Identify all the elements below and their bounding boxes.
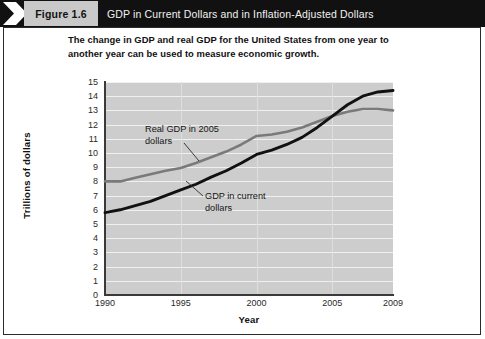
y-axis-tick-label: 15: [72, 77, 98, 87]
current-gdp-annotation-line-1: GDP in current: [205, 191, 315, 203]
y-axis-tick-label: 7: [72, 191, 98, 201]
chart: 0123456789101112131415 19901995200020052…: [0, 0, 485, 339]
figure-container: Figure 1.6 GDP in Current Dollars and in…: [0, 0, 485, 339]
real-gdp-annotation-line-2: dollars: [145, 136, 265, 148]
y-axis-tick-label: 4: [72, 233, 98, 243]
y-axis-tick-label: 5: [72, 219, 98, 229]
gridline-horizontal: [105, 224, 393, 225]
gridline-horizontal: [105, 252, 393, 253]
gridline-horizontal: [105, 110, 393, 111]
gridline-horizontal: [105, 167, 393, 168]
y-axis-tick-label: 3: [72, 247, 98, 257]
x-axis-line: [104, 294, 394, 296]
y-axis-tick-label: 1: [72, 276, 98, 286]
gridline-horizontal: [105, 267, 393, 268]
y-axis-line: [104, 81, 106, 296]
y-axis-tick-label: 14: [72, 91, 98, 101]
gridline-horizontal: [105, 153, 393, 154]
x-axis-tick-label: 1995: [156, 298, 206, 308]
gridline-horizontal: [105, 96, 393, 97]
x-axis-tick-label: 1990: [80, 298, 130, 308]
x-axis-tick-label: 2000: [232, 298, 282, 308]
y-axis-tick-label: 8: [72, 176, 98, 186]
y-axis-tick-label: 13: [72, 105, 98, 115]
y-axis-tick-label: 9: [72, 162, 98, 172]
gridline-horizontal: [105, 238, 393, 239]
x-axis-tick-label: 2009: [368, 298, 418, 308]
gridline-horizontal: [105, 82, 393, 83]
gridline-vertical: [332, 82, 333, 295]
x-axis-tick-label: 2005: [307, 298, 357, 308]
x-axis-label: Year: [199, 314, 299, 325]
plot-background: [105, 82, 393, 295]
y-axis-tick-label: 2: [72, 262, 98, 272]
current-gdp-annotation-line-2: dollars: [205, 203, 315, 215]
gridline-vertical: [181, 82, 182, 295]
y-axis-tick-label: 11: [72, 134, 98, 144]
current-gdp-annotation: GDP in current dollars: [205, 191, 315, 215]
y-axis-label: Trillions of dollars: [21, 116, 32, 236]
real-gdp-annotation-line-1: Real GDP in 2005: [145, 124, 265, 136]
y-axis-tick-label: 10: [72, 148, 98, 158]
y-axis-tick-label: 12: [72, 120, 98, 130]
gridline-horizontal: [105, 181, 393, 182]
gridline-horizontal: [105, 281, 393, 282]
gridline-vertical: [257, 82, 258, 295]
y-axis-tick-label: 6: [72, 205, 98, 215]
real-gdp-annotation: Real GDP in 2005 dollars: [145, 124, 265, 148]
